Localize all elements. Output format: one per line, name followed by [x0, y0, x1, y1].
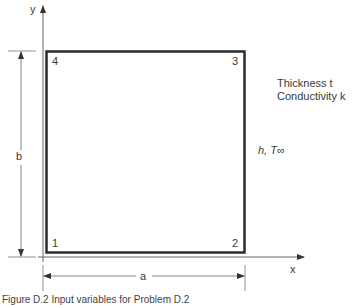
figure-caption: Figure D.2 Input variables for Problem D…: [2, 294, 189, 305]
b-dimension-label: b: [16, 151, 22, 162]
corner-4-label: 4: [52, 56, 58, 67]
thickness-label: Thickness t: [277, 78, 333, 89]
corner-2-label: 2: [232, 238, 238, 249]
t-infinity-symbol: T∞: [270, 144, 285, 156]
x-axis-label: x: [290, 264, 296, 275]
corner-3-label: 3: [232, 56, 238, 67]
conductivity-label: Conductivity k: [277, 91, 345, 102]
a-dimension-label: a: [140, 271, 146, 282]
plate-rectangle: [47, 52, 245, 253]
convection-label: h, T∞: [258, 145, 285, 156]
h-symbol: h,: [258, 144, 267, 156]
corner-1-label: 1: [52, 238, 58, 249]
y-axis-label: y: [30, 4, 36, 15]
